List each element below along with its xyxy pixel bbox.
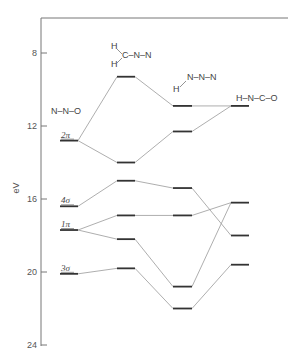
svg-text:H: H <box>173 84 180 94</box>
orbital-label: 2π <box>61 130 71 140</box>
svg-text:C–N–N: C–N–N <box>122 50 152 60</box>
axis-frame <box>41 18 288 346</box>
molecule-label-n2o: N–N–O <box>51 106 81 116</box>
correlation-line <box>192 265 231 309</box>
correlation-line <box>192 106 231 132</box>
correlation-line <box>78 230 117 239</box>
correlation-line <box>78 77 117 141</box>
axis-label: eV <box>11 182 21 193</box>
molecule-label-hn3: N–N–N H <box>173 72 217 94</box>
tick-label: 16 <box>27 194 37 204</box>
tick-label: 12 <box>27 121 37 131</box>
orbital-label: 3σ <box>60 263 71 273</box>
tick-label: 20 <box>27 267 37 277</box>
molecule-label-h2cnn: H C–N–N H <box>111 41 152 69</box>
correlation-line <box>78 141 117 163</box>
correlation-line <box>78 181 117 207</box>
correlation-line <box>135 268 173 308</box>
tick-label: 24 <box>27 340 37 350</box>
correlation-line <box>192 203 231 216</box>
correlation-line <box>78 268 117 273</box>
orbital-correlation-diagram: eV 812162024 2π4σ1π3σ N–N–O H C–N–N H N–… <box>0 0 301 364</box>
correlation-line <box>135 131 173 162</box>
correlation-line <box>135 239 173 286</box>
orbital-label: 1π <box>61 219 71 229</box>
correlation-line <box>192 188 231 235</box>
svg-text:H: H <box>111 59 118 69</box>
correlation-line <box>78 215 117 230</box>
molecule-labels: N–N–O H C–N–N H N–N–N H H–N–C–O <box>51 41 278 116</box>
svg-text:N–N–N: N–N–N <box>187 72 217 82</box>
correlation-line <box>192 203 231 287</box>
energy-levels: 2π4σ1π3σ <box>60 77 249 309</box>
svg-text:H: H <box>111 41 118 51</box>
correlation-lines <box>78 77 231 309</box>
tick-label: 8 <box>32 48 37 58</box>
molecule-label-hnco: H–N–C–O <box>236 93 278 103</box>
correlation-line <box>135 181 173 188</box>
correlation-line <box>135 77 173 106</box>
orbital-label: 4σ <box>61 195 71 205</box>
axis-ticks: 812162024 <box>27 48 47 350</box>
